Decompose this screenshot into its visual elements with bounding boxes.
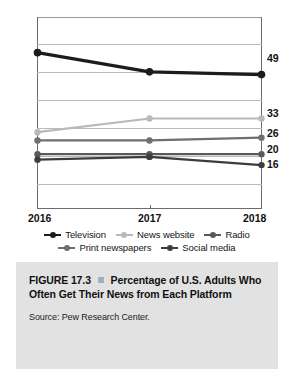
legend-label: Print newspapers <box>79 242 151 253</box>
legend-row-2: Print newspapers Social media <box>0 241 294 254</box>
legend-item-radio[interactable]: Radio <box>204 229 249 240</box>
chart-plot-area: 57% 28% 25% 20% 18% 49 33 26 20 16 2016 … <box>0 0 294 228</box>
legend-label: Radio <box>225 229 249 240</box>
figure-caption-block: FIGURE 17.3 Percentage of U.S. Adults Wh… <box>16 262 278 369</box>
legend-item-print-newspapers[interactable]: Print newspapers <box>58 242 151 253</box>
data-point <box>258 71 266 79</box>
legend-marker-icon <box>204 230 221 239</box>
legend-item-news-website[interactable]: News website <box>116 229 194 240</box>
data-point <box>258 162 264 168</box>
value-label-right-radio: 20 <box>267 143 278 155</box>
figure-number: FIGURE 17.3 <box>29 274 91 286</box>
legend-marker-icon <box>44 230 61 239</box>
legend-marker-icon <box>116 230 133 239</box>
figure-container: 57% 28% 25% 20% 18% 49 33 26 20 16 2016 … <box>0 0 294 385</box>
series-lines <box>37 17 262 209</box>
legend-item-social-media[interactable]: Social media <box>161 242 235 253</box>
data-point <box>258 151 264 157</box>
data-point <box>258 115 264 121</box>
data-point <box>34 156 40 162</box>
value-label-right-social-media: 16 <box>267 158 278 170</box>
legend-row-1: Television News website Radio <box>0 228 294 241</box>
legend-marker-icon <box>58 243 75 252</box>
legend-item-television[interactable]: Television <box>44 229 106 240</box>
data-point <box>34 49 42 57</box>
legend-label: Social media <box>182 242 235 253</box>
data-point <box>146 137 152 143</box>
legend-label: Television <box>65 229 106 240</box>
x-axis-label-2018: 2018 <box>243 212 266 224</box>
figure-caption: FIGURE 17.3 Percentage of U.S. Adults Wh… <box>29 273 265 301</box>
data-point <box>146 115 152 121</box>
x-axis-label-2016: 2016 <box>28 212 51 224</box>
value-label-right-television: 49 <box>267 52 278 64</box>
data-point <box>146 154 152 160</box>
data-point <box>34 137 40 143</box>
caption-accent-square <box>98 277 104 283</box>
plot-box <box>37 17 262 209</box>
data-point <box>34 151 40 157</box>
x-axis-label-2017: 2017 <box>138 212 161 224</box>
data-point <box>258 134 264 140</box>
figure-source: Source: Pew Research Center. <box>29 312 265 322</box>
value-label-right-print-newspapers: 26 <box>267 127 278 139</box>
data-point <box>34 129 40 135</box>
legend-label: News website <box>137 229 194 240</box>
chart-legend: Television News website Radio <box>0 228 294 254</box>
data-point <box>146 68 154 76</box>
value-label-right-news-website: 33 <box>267 107 278 119</box>
legend-marker-icon <box>161 243 178 252</box>
